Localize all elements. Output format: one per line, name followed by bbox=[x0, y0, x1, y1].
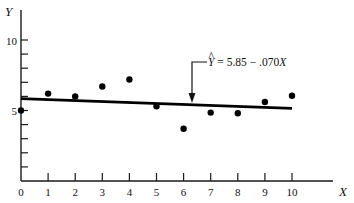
y-tick-label-10: 10 bbox=[6, 35, 18, 47]
x-tick-label-10: 10 bbox=[287, 186, 299, 198]
x-tick-label-7: 7 bbox=[208, 186, 214, 198]
y-tick-label-5: 5 bbox=[12, 105, 18, 117]
x-tick-label-4: 4 bbox=[127, 186, 133, 198]
x-tick-label-6: 6 bbox=[181, 186, 187, 198]
x-tick-label-1: 1 bbox=[45, 186, 51, 198]
x-axis-ticks bbox=[48, 173, 292, 181]
data-point bbox=[235, 110, 241, 116]
data-point bbox=[289, 93, 295, 99]
y-axis-label: Y bbox=[5, 4, 14, 19]
y-axis-tick-labels: 10 5 bbox=[6, 35, 18, 118]
x-tick-label-2: 2 bbox=[72, 186, 78, 198]
data-point bbox=[99, 83, 105, 89]
x-tick-label-0: 0 bbox=[18, 186, 24, 198]
x-axis-tick-labels: 0 1 2 3 4 5 6 7 8 9 10 bbox=[18, 186, 298, 198]
axes-group bbox=[21, 10, 333, 181]
equation-annotation: Y = 5.85 − .070X ^ bbox=[189, 50, 288, 104]
x-tick-label-3: 3 bbox=[100, 186, 106, 198]
x-axis-label: X bbox=[338, 184, 348, 199]
equation-x-variable: X bbox=[278, 56, 287, 68]
scatter-plot-figure: 10 5 0 1 2 3 4 5 6 7 8 9 10 Y X bbox=[0, 0, 354, 203]
equation-text: Y = 5.85 − .070X bbox=[208, 56, 287, 68]
data-point bbox=[18, 107, 24, 113]
data-point bbox=[262, 99, 268, 105]
chart-canvas: 10 5 0 1 2 3 4 5 6 7 8 9 10 Y X bbox=[0, 0, 354, 203]
data-point bbox=[180, 126, 186, 132]
data-point bbox=[45, 90, 51, 96]
x-tick-label-5: 5 bbox=[154, 186, 160, 198]
data-points-group bbox=[18, 76, 295, 132]
data-point bbox=[208, 109, 214, 115]
data-point bbox=[72, 93, 78, 99]
x-tick-label-8: 8 bbox=[235, 186, 241, 198]
data-point bbox=[126, 76, 132, 82]
equation-hat-symbol: ^ bbox=[209, 50, 215, 62]
equation-body: = 5.85 − .070 bbox=[214, 56, 279, 68]
annotation-leader-line bbox=[192, 62, 207, 96]
x-tick-label-9: 9 bbox=[262, 186, 268, 198]
annotation-arrowhead-icon bbox=[189, 93, 196, 103]
data-point bbox=[153, 103, 159, 109]
y-axis-ticks bbox=[21, 40, 28, 167]
